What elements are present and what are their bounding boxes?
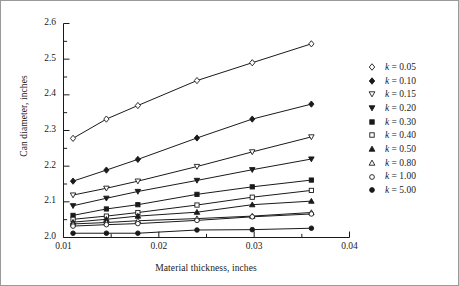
y-tick-label: 2.0 bbox=[22, 231, 56, 241]
series-5 bbox=[71, 188, 314, 221]
x-tick-label: 0.03 bbox=[232, 241, 276, 251]
legend-item[interactable]: k = 1.00 bbox=[363, 170, 455, 184]
series-3 bbox=[70, 157, 314, 209]
legend-item[interactable]: k = 0.10 bbox=[363, 74, 455, 88]
x-tick-label: 0.01 bbox=[42, 241, 86, 251]
y-tick-label: 2.2 bbox=[22, 160, 56, 170]
filled-triangle-up-icon bbox=[363, 142, 381, 156]
legend-item[interactable]: k = 0.50 bbox=[363, 142, 455, 156]
open-triangle-up-icon bbox=[363, 156, 381, 170]
filled-circle-icon bbox=[363, 183, 381, 197]
chart-legend: k = 0.05k = 0.10k = 0.15k = 0.20k = 0.30… bbox=[363, 60, 455, 197]
legend-item[interactable]: k = 0.80 bbox=[363, 156, 455, 170]
legend-item-label: k = 0.05 bbox=[381, 62, 416, 72]
legend-item[interactable]: k = 0.30 bbox=[363, 115, 455, 129]
open-square-icon bbox=[363, 128, 381, 142]
y-tick-label: 2.1 bbox=[22, 195, 56, 205]
open-circle-icon bbox=[363, 170, 381, 184]
y-tick-label: 2.4 bbox=[22, 88, 56, 98]
filled-triangle-down-icon bbox=[363, 101, 381, 115]
legend-item-label: k = 0.50 bbox=[381, 144, 416, 154]
filled-diamond-icon bbox=[363, 74, 381, 88]
x-tick-label: 0.04 bbox=[328, 241, 372, 251]
y-tick-label: 2.3 bbox=[22, 124, 56, 134]
chart-figure: Can diameter, inches Material thickness,… bbox=[1, 1, 459, 286]
figure-frame: Can diameter, inches Material thickness,… bbox=[0, 0, 459, 286]
y-tick-label: 2.6 bbox=[22, 17, 56, 27]
open-diamond-icon bbox=[363, 60, 381, 74]
legend-item-label: k = 0.40 bbox=[381, 130, 416, 140]
legend-item-label: k = 5.00 bbox=[381, 185, 416, 195]
legend-item[interactable]: k = 5.00 bbox=[363, 183, 455, 197]
legend-item[interactable]: k = 0.20 bbox=[363, 101, 455, 115]
legend-item[interactable]: k = 0.40 bbox=[363, 128, 455, 142]
legend-item-label: k = 0.80 bbox=[381, 158, 416, 168]
legend-item[interactable]: k = 0.05 bbox=[363, 60, 455, 74]
y-tick-label: 2.5 bbox=[22, 53, 56, 63]
x-tick-label: 0.02 bbox=[137, 241, 181, 251]
legend-item-label: k = 0.15 bbox=[381, 89, 416, 99]
legend-item[interactable]: k = 0.15 bbox=[363, 87, 455, 101]
filled-square-icon bbox=[363, 115, 381, 129]
series-1 bbox=[70, 101, 314, 184]
legend-item-label: k = 0.20 bbox=[381, 103, 416, 113]
series-9 bbox=[71, 226, 314, 236]
legend-item-label: k = 1.00 bbox=[381, 171, 416, 181]
x-axis-title: Material thickness, inches bbox=[63, 263, 349, 273]
series-2 bbox=[70, 135, 314, 198]
open-triangle-down-icon bbox=[363, 87, 381, 101]
series-0 bbox=[70, 41, 314, 142]
legend-item-label: k = 0.30 bbox=[381, 117, 416, 127]
legend-item-label: k = 0.10 bbox=[381, 76, 416, 86]
